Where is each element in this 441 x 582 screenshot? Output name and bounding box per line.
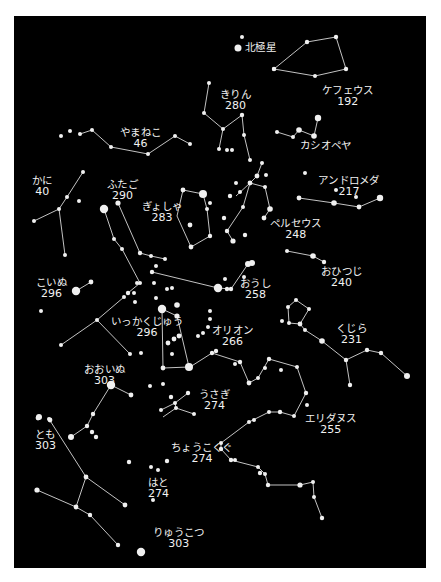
star-icon <box>238 190 242 194</box>
star-icon <box>152 281 156 285</box>
star-icon <box>225 287 229 291</box>
constellation-line <box>346 360 350 385</box>
star-icon <box>94 435 98 439</box>
label-perseus: ペルセウス248 <box>270 217 322 241</box>
label-aries: おひつじ240 <box>321 265 362 289</box>
star-icon <box>159 408 163 412</box>
star-icon <box>241 205 245 209</box>
constellation-line <box>242 115 244 135</box>
star-icon <box>344 358 348 362</box>
star-icon <box>278 410 282 414</box>
star-icon <box>263 472 267 476</box>
page-number: 258 <box>240 289 271 301</box>
constellation-line <box>207 209 210 236</box>
star-icon <box>225 148 229 152</box>
star-icon <box>109 145 113 149</box>
constellation-line <box>221 422 249 443</box>
star-icon <box>243 233 247 237</box>
star-icon <box>170 286 174 290</box>
constellation-line <box>76 507 90 515</box>
star-icon <box>313 74 317 78</box>
star-icon <box>334 35 338 39</box>
star-icon <box>32 219 36 223</box>
star-icon <box>129 393 134 398</box>
constellation-line <box>359 198 380 207</box>
constellation-line <box>204 113 223 129</box>
star-icon <box>379 351 383 355</box>
label-canis-minor: こいぬ296 <box>36 276 67 300</box>
star-icon <box>311 133 317 139</box>
star-icon <box>188 223 193 228</box>
constellation-line <box>288 307 289 323</box>
star-icon <box>248 181 253 186</box>
star-icon <box>357 205 362 210</box>
page-number: 296 <box>111 327 183 339</box>
star-icon <box>404 373 410 379</box>
constellation-line <box>269 359 297 367</box>
page-number: 290 <box>107 190 138 202</box>
star-icon <box>128 352 132 356</box>
label-monoceros: いっかくじゅう296 <box>111 315 183 339</box>
constellation-line <box>122 249 140 283</box>
star-icon <box>146 152 150 156</box>
star-icon <box>192 412 196 416</box>
label-gemini: ふたご290 <box>107 178 138 202</box>
constellation-line <box>191 236 210 247</box>
star-icon <box>205 207 209 211</box>
constellation-line <box>175 136 190 144</box>
constellation-line <box>305 330 322 341</box>
constellation-line <box>104 209 114 239</box>
star-icon <box>112 237 116 241</box>
star-icon <box>256 376 260 380</box>
star-icon <box>267 206 273 212</box>
star-icon <box>263 366 267 370</box>
constellation-line <box>313 482 314 497</box>
star-icon <box>287 321 291 325</box>
star-icon <box>173 401 177 405</box>
star-icon <box>78 132 82 136</box>
star-icon <box>214 284 222 292</box>
star-icon <box>225 229 229 233</box>
star-icon <box>344 67 348 71</box>
constellation-name: カシオペヤ <box>300 139 352 151</box>
page-number: 274 <box>148 488 169 500</box>
star-icon <box>39 309 43 313</box>
star-icon <box>59 134 63 138</box>
star-icon <box>186 391 190 395</box>
page-number: 231 <box>336 334 367 346</box>
page-number: 217 <box>318 186 380 198</box>
constellation-line <box>59 209 65 255</box>
star-icon <box>47 417 51 421</box>
star-icon <box>74 505 79 510</box>
star-icon <box>85 424 89 428</box>
page-number: 274 <box>171 453 233 465</box>
star-icon <box>303 171 307 175</box>
star-icon <box>65 195 69 199</box>
star-icon <box>185 363 193 371</box>
constellation-line <box>287 251 313 256</box>
page-number: 192 <box>322 96 374 108</box>
label-taurus: おうし258 <box>240 277 271 301</box>
star-icon <box>230 238 235 243</box>
star-icon <box>233 362 237 366</box>
star-icon <box>280 319 284 323</box>
star-icon <box>72 287 80 295</box>
constellation-line <box>152 272 218 288</box>
star-icon <box>165 287 169 291</box>
constellation-line <box>118 203 140 253</box>
star-icon <box>95 318 99 322</box>
star-icon <box>255 174 260 179</box>
label-polaris: 北極星 <box>245 41 276 53</box>
page-number: 303 <box>35 440 56 452</box>
star-icon <box>248 158 252 162</box>
polaris-star-icon <box>235 45 242 52</box>
constellation-line <box>346 350 367 360</box>
constellation-line <box>93 385 111 414</box>
star-icon <box>154 296 158 300</box>
constellation-line <box>265 187 270 209</box>
star-icon <box>163 257 167 261</box>
constellation-line <box>176 408 194 414</box>
star-icon <box>312 495 316 499</box>
star-icon <box>166 341 171 346</box>
constellation-line <box>59 197 67 209</box>
